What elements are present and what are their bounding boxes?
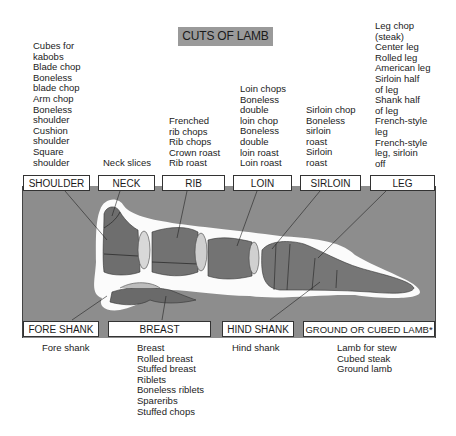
label-sirloin[interactable]: SIRLOIN <box>300 175 361 191</box>
label-breast[interactable]: BREAST <box>108 321 211 337</box>
ground-lamb-cuts-list: Lamb for stew Cubed steak Ground lamb <box>337 343 397 375</box>
label-shoulder[interactable]: SHOULDER <box>23 175 90 191</box>
label-loin[interactable]: LOIN <box>233 175 292 191</box>
label-leg[interactable]: LEG <box>370 175 435 191</box>
breast-cuts-list: Breast Rolled breast Stuffed breast Ribl… <box>137 343 204 417</box>
hind-shank-cuts-list: Hind shank <box>232 343 280 354</box>
label-hind-shank[interactable]: HIND SHANK <box>222 321 294 337</box>
label-rib[interactable]: RIB <box>162 175 225 191</box>
label-ground-or-cubed-lamb[interactable]: GROUND OR CUBED LAMB* <box>303 321 435 337</box>
label-neck[interactable]: NECK <box>98 175 155 191</box>
fore-shank-cuts-list: Fore shank <box>42 343 90 354</box>
label-fore-shank[interactable]: FORE SHANK <box>23 321 99 337</box>
